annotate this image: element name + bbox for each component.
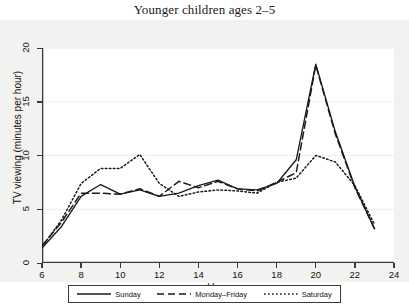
x-tick-mark (354, 263, 355, 268)
series-line-saturday (42, 154, 374, 246)
legend-swatch-dotted-icon (264, 291, 298, 297)
x-tick-mark (41, 263, 42, 268)
legend-label: Saturday (302, 290, 332, 299)
legend-swatch-dashed-icon (157, 291, 191, 297)
x-tick-label: 20 (308, 269, 324, 280)
x-tick-mark (198, 263, 199, 268)
x-tick-label: 10 (112, 269, 128, 280)
series-line-sunday (42, 64, 374, 248)
chart-title: Younger children ages 2–5 (0, 2, 409, 18)
x-tick-label: 8 (73, 269, 89, 280)
y-tick-label: 10 (20, 147, 31, 163)
x-tick-mark (237, 263, 238, 268)
y-tick-label: 15 (20, 93, 31, 109)
chart-panel: TV viewing (minutes per hour) Hour 05101… (0, 20, 409, 282)
x-tick-label: 12 (151, 269, 167, 280)
x-tick-label: 24 (386, 269, 402, 280)
y-tick-label: 0 (20, 255, 31, 271)
x-tick-mark (80, 263, 81, 268)
legend-label: Sunday (115, 290, 140, 299)
plot-lines (42, 48, 394, 263)
legend-swatch-solid-icon (77, 291, 111, 297)
x-tick-mark (120, 263, 121, 268)
y-axis-title: TV viewing (minutes per hour) (12, 23, 23, 253)
legend-entry-sunday: Sunday (77, 290, 140, 299)
x-tick-label: 6 (34, 269, 50, 280)
chart-figure: Younger children ages 2–5 TV viewing (mi… (0, 0, 409, 308)
x-tick-label: 16 (230, 269, 246, 280)
x-tick-label: 14 (190, 269, 206, 280)
plot-region (42, 48, 394, 263)
chart-legend: SundayMonday–FridaySaturday (68, 285, 341, 303)
x-tick-mark (315, 263, 316, 268)
x-tick-mark (393, 263, 394, 268)
x-tick-mark (276, 263, 277, 268)
y-tick-label: 20 (20, 40, 31, 56)
legend-entry-monday-friday: Monday–Friday (157, 290, 247, 299)
x-tick-mark (159, 263, 160, 268)
y-tick-label: 5 (20, 201, 31, 217)
legend-entry-saturday: Saturday (264, 290, 332, 299)
legend-label: Monday–Friday (195, 290, 247, 299)
x-tick-label: 22 (347, 269, 363, 280)
x-tick-label: 18 (269, 269, 285, 280)
